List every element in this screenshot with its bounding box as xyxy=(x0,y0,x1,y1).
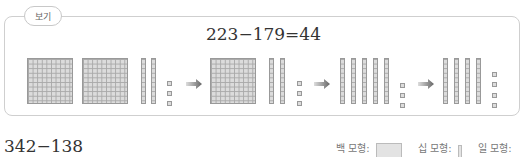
ten-rod xyxy=(141,58,146,104)
arrow-right-icon xyxy=(314,79,330,89)
one-cube xyxy=(167,101,172,106)
one-cube xyxy=(167,81,172,86)
one-cube xyxy=(297,91,302,96)
ten-rod xyxy=(151,58,156,104)
legend-hundred-label: 백 모형: xyxy=(336,140,370,155)
legend-ten-rod xyxy=(458,145,462,157)
ten-rod xyxy=(476,58,481,104)
ten-rod xyxy=(454,58,459,104)
ten-rod xyxy=(373,58,378,104)
one-cube xyxy=(492,103,497,108)
one-cube xyxy=(400,93,405,98)
ten-rod xyxy=(280,58,285,104)
ten-rod xyxy=(465,58,470,104)
problem-expression: 342−138 xyxy=(4,136,83,156)
one-cube xyxy=(167,91,172,96)
one-cube xyxy=(492,93,497,98)
ten-rod xyxy=(340,58,345,104)
ten-rod xyxy=(443,58,448,104)
hundred-block xyxy=(82,58,128,104)
one-cube xyxy=(492,82,497,87)
hundred-block xyxy=(27,58,73,104)
one-cube xyxy=(297,81,302,86)
ten-rod xyxy=(384,58,389,104)
example-tag: 보기 xyxy=(24,6,62,26)
example-tag-label: 보기 xyxy=(35,10,51,23)
legend-one-label: 일 모형: xyxy=(478,140,512,155)
ten-rod xyxy=(362,58,367,104)
one-cube xyxy=(400,103,405,108)
example-equation: 223−179=44 xyxy=(0,24,527,44)
legend-ten-label: 십 모형: xyxy=(418,140,452,155)
ten-rod xyxy=(269,58,274,104)
arrow-right-icon xyxy=(186,79,202,89)
one-cube xyxy=(492,72,497,77)
legend-hundred-block xyxy=(376,143,402,157)
arrow-right-icon xyxy=(418,79,434,89)
one-cube xyxy=(297,101,302,106)
hundred-block xyxy=(210,58,256,104)
ten-rod xyxy=(351,58,356,104)
one-cube xyxy=(400,83,405,88)
